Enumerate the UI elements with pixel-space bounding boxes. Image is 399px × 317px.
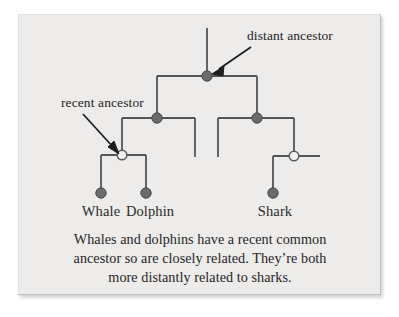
leaf-label-shark: Shark [258,203,292,220]
caption-line-3: more distantly related to sharks. [34,268,366,287]
node-left-inner [152,113,162,123]
node-recent-ancestor-open [117,150,127,160]
label-distant-ancestor: distant ancestor [247,28,333,44]
node-right-inner [252,113,262,123]
caption-line-1: Whales and dolphins have a recent common [34,230,366,249]
node-leaf-whale [96,188,106,198]
leaf-label-whale: Whale [82,203,120,220]
tree-nodes [96,71,299,198]
node-leaf-shark [268,188,278,198]
node-root [202,71,212,81]
node-right-open [289,151,299,161]
leaf-label-dolphin: Dolphin [126,203,174,220]
figure-root: distant ancestor recent ancestor Whale D… [0,0,399,317]
node-leaf-dolphin [141,188,151,198]
label-recent-ancestor: recent ancestor [61,95,144,111]
figure-caption: Whales and dolphins have a recent common… [34,230,366,287]
recent-ancestor-arrow-line [83,114,113,147]
caption-line-2: ancestor so are closely related. They’re… [34,249,366,268]
distant-ancestor-arrow-head [212,66,224,76]
